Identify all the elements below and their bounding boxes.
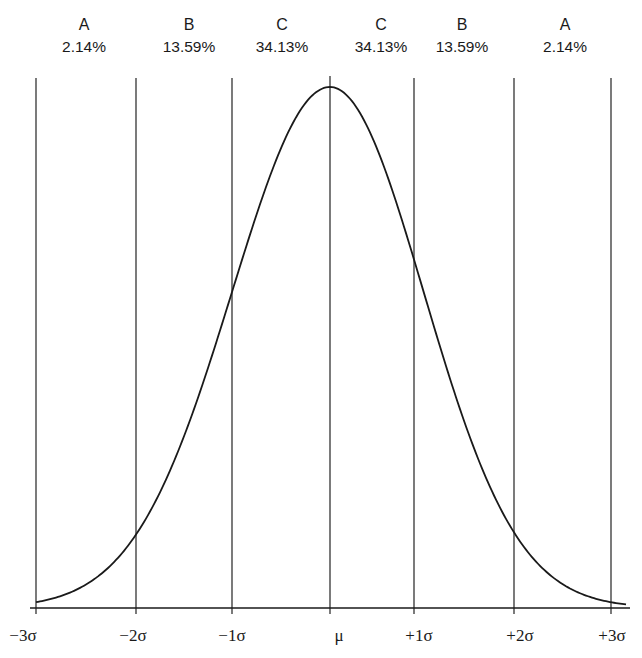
band-letter: B [144, 16, 234, 34]
band-percent: 34.13% [336, 38, 426, 56]
tick-mean: μ [309, 626, 369, 646]
band-label-c-right: C 34.13% [336, 16, 426, 56]
tick-plus-2-sigma: +2σ [490, 626, 550, 646]
band-letter: B [417, 16, 507, 34]
tick-minus-2-sigma: −2σ [103, 626, 163, 646]
band-percent: 13.59% [144, 38, 234, 56]
sigma-lines [36, 76, 611, 614]
tick-minus-3-sigma: −3σ [0, 626, 53, 646]
band-label-a-right: A 2.14% [520, 16, 610, 56]
band-label-b-left: B 13.59% [144, 16, 234, 56]
tick-plus-1-sigma: +1σ [389, 626, 449, 646]
band-percent: 2.14% [39, 38, 129, 56]
band-letter: C [237, 16, 327, 34]
band-label-c-left: C 34.13% [237, 16, 327, 56]
band-letter: C [336, 16, 426, 34]
bell-curve [36, 87, 626, 604]
tick-plus-3-sigma: +3σ [582, 626, 642, 646]
plot-area [0, 0, 642, 658]
tick-minus-1-sigma: −1σ [202, 626, 262, 646]
band-label-a-left: A 2.14% [39, 16, 129, 56]
band-percent: 34.13% [237, 38, 327, 56]
band-letter: A [520, 16, 610, 34]
normal-distribution-chart: A 2.14% B 13.59% C 34.13% C 34.13% B 13.… [0, 0, 642, 658]
band-letter: A [39, 16, 129, 34]
band-percent: 2.14% [520, 38, 610, 56]
band-percent: 13.59% [417, 38, 507, 56]
band-label-b-right: B 13.59% [417, 16, 507, 56]
